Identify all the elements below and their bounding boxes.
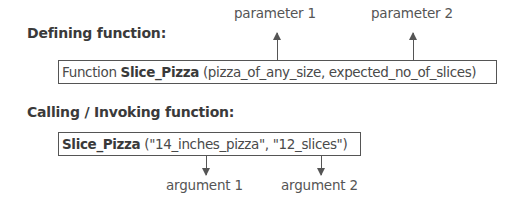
argument-1-label: argument 1: [166, 177, 243, 193]
arrow-down-icon: [321, 156, 322, 175]
arrow-up-icon: [413, 33, 414, 60]
function-definition-box: Function Slice_Pizza (pizza_of_any_size,…: [58, 60, 497, 84]
calling-function-heading: Calling / Invoking function:: [27, 104, 234, 120]
argument-list: ("14_inches_pizza", "12_slices"): [144, 136, 347, 152]
parameter-list: (pizza_of_any_size, expected_no_of_slice…: [203, 64, 476, 80]
argument-2-label: argument 2: [281, 177, 358, 193]
arrow-up-icon: [277, 33, 278, 60]
function-keyword: Function: [62, 64, 117, 80]
function-call-box: Slice_Pizza ("14_inches_pizza", "12_slic…: [58, 132, 361, 156]
defining-function-heading: Defining function:: [27, 25, 166, 41]
parameter-2-label: parameter 2: [371, 5, 453, 21]
parameter-1-label: parameter 1: [234, 5, 316, 21]
function-name: Slice_Pizza: [62, 136, 140, 152]
function-name: Slice_Pizza: [121, 64, 199, 80]
arrow-down-icon: [206, 156, 207, 175]
